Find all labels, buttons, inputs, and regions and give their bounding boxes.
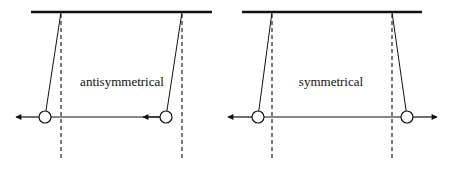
- mode-label: symmetrical: [299, 74, 364, 89]
- pendulum-string-left: [259, 12, 272, 111]
- pendulum-string-right: [167, 12, 182, 111]
- mode-label: antisymmetrical: [80, 74, 164, 89]
- panel-antisymmetrical: antisymmetrical: [16, 12, 212, 160]
- pendulum-string-right: [392, 12, 406, 111]
- pendulum-bob-right: [401, 111, 413, 123]
- pendulum-bob-left: [252, 111, 264, 123]
- pendulum-modes-diagram: antisymmetrical symmetrical: [0, 0, 451, 173]
- pendulum-bob-left: [39, 111, 51, 123]
- panel-symmetrical: symmetrical: [228, 12, 437, 160]
- pendulum-bob-right: [160, 111, 172, 123]
- pendulum-string-left: [46, 12, 61, 111]
